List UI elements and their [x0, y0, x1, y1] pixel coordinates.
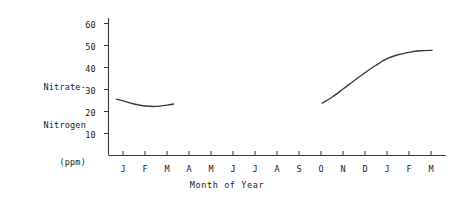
data-series-early-season	[116, 99, 173, 106]
plot-area	[0, 0, 454, 201]
nitrate-nitrogen-line-chart: Nitrate- Nitrogen (ppm) 60 50 40 30 20 1…	[0, 0, 454, 201]
data-series-late-season	[322, 50, 432, 103]
